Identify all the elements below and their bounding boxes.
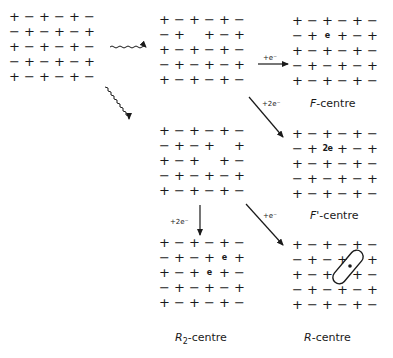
label-f-prime-centre-text: -centre xyxy=(319,209,358,222)
arrows-layer xyxy=(0,0,393,358)
r-centre-oval xyxy=(330,248,366,287)
arrow-to-r-centre xyxy=(246,204,283,245)
label-f-centre: F-centre xyxy=(310,97,355,110)
label-r-centre-symbol: R xyxy=(304,331,312,344)
arrow-label-f-prime-centre: +2e⁻ xyxy=(262,100,280,108)
arrow-label-f-centre: +e⁻ xyxy=(263,54,277,62)
label-r-centre: R-centre xyxy=(304,331,351,344)
r-centre-electron xyxy=(348,264,352,268)
arrow-label-r2-centre: +2e⁻ xyxy=(170,218,188,226)
label-f-prime-centre-symbol: F' xyxy=(310,209,319,222)
label-r2-centre-symbol: R xyxy=(175,331,183,344)
label-r2-centre: R2-centre xyxy=(175,331,227,346)
label-r-centre-text: -centre xyxy=(312,331,351,344)
label-f-prime-centre: F'-centre xyxy=(310,209,358,222)
label-f-centre-text: -centre xyxy=(316,97,355,110)
arrow-label-r-centre: +e⁻ xyxy=(263,212,277,220)
label-r2-centre-text: -centre xyxy=(188,331,227,344)
wavy-arrow-diagonal xyxy=(105,87,129,119)
wavy-arrow-right xyxy=(110,46,146,48)
